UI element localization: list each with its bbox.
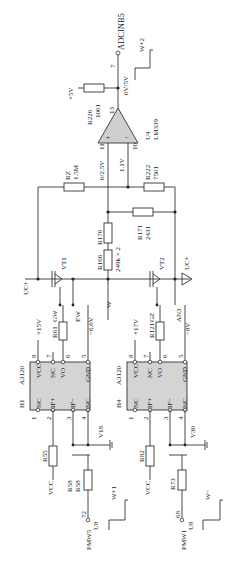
r166-resistor (104, 250, 112, 270)
h1-nc7: NC (49, 368, 57, 378)
rz-ref: RZ (64, 171, 72, 180)
h4-pin8: 8 (127, 354, 135, 358)
h4-input-vcc: VCC (144, 480, 152, 495)
v18-label: V18 (97, 425, 105, 438)
r73-ref: R73 (169, 478, 177, 490)
h4-pwm-label: PMW1 (180, 529, 188, 550)
h4-part: A3120 (115, 365, 123, 385)
h4-pin2: 2 (142, 416, 150, 420)
waveform-w1-icon (109, 500, 128, 530)
h4-vcc-pinlabel: VCC (132, 363, 140, 378)
r226-resistor (84, 84, 104, 92)
r82-resistor (146, 446, 154, 466)
h4-pin7: 7 (142, 354, 150, 358)
waveform-w2-icon (135, 50, 153, 78)
h1-pin2: 2 (45, 416, 53, 420)
h1-nc4: NC (84, 398, 92, 408)
h4-pwm-pin: 68 (174, 511, 182, 519)
r176-resistor (104, 223, 112, 243)
circuit-schematic: ADCINB5 7 0V/5V W+2 +5V R226 1001 + − 13… (0, 0, 233, 562)
h1-pin6: 6 (64, 354, 72, 358)
r222-resistor (144, 183, 164, 191)
r55-resistor (49, 446, 57, 466)
pin10-label: 10 (131, 143, 139, 151)
h1-gnd-level: −6.6V (87, 317, 95, 335)
h4-ref: H4 (115, 399, 123, 408)
r121-ref: R121 (148, 322, 156, 338)
gw-label: GW (51, 310, 59, 322)
output-pin-label: 7 (109, 64, 117, 68)
h1-vo: VO (59, 368, 67, 378)
r121-resistor (156, 322, 164, 340)
uc-plus-left: UC+ (22, 281, 30, 295)
r55-ref: R55 (41, 450, 49, 462)
r58-ref: R58 (66, 480, 74, 492)
h1-mcu: U8 (92, 521, 100, 530)
lm339-comparator (98, 108, 138, 143)
r226-value: 1001 (94, 104, 102, 119)
vt2-label: VT2 (158, 257, 166, 270)
rz-resistor (64, 183, 84, 191)
r166-value: 249k × 2 (114, 247, 122, 272)
waveform-w1-label: W+1 (110, 485, 118, 500)
h4-gnd: GND (181, 367, 189, 382)
h4-mcu: U8 (187, 521, 195, 530)
h1-gnd: GND (84, 367, 92, 382)
output-level-label: 0V/5V (122, 76, 130, 95)
r61-resistor (59, 322, 67, 340)
igbt-vt1: VT1 GW EW (51, 257, 82, 322)
h4-gnd-level: −8V (184, 322, 192, 335)
r58-resistor (84, 470, 92, 490)
h4-vcc-level: +17V (132, 319, 140, 335)
adcinb5-terminal (116, 51, 120, 55)
ew-label: EW (74, 311, 82, 322)
waveform-wminus-label: W− (204, 489, 212, 500)
h4-pin4: 4 (177, 416, 185, 420)
r222-ref: R222 (144, 164, 152, 180)
h4-nc7: NC (146, 368, 154, 378)
h1-pin4: 4 (80, 416, 88, 420)
h1-input-vcc: VCC (47, 480, 55, 495)
v30-label: V30 (189, 425, 197, 438)
an3-label: AN3 (175, 308, 183, 322)
r176-ref: R176 (96, 229, 104, 245)
pin13-label: 13 (108, 107, 116, 115)
h1-pin5: 5 (80, 354, 88, 358)
h1-pwm-label: PMW5 (85, 529, 93, 550)
waveform-wminus-icon (203, 500, 223, 530)
minus-input-level: 1.1V (118, 158, 126, 172)
r171-value: 2431 (144, 226, 152, 241)
r73-resistor (178, 470, 186, 490)
u4-ref: U4 (144, 131, 152, 140)
plus-sign: + (106, 134, 110, 142)
h1-pin1: 1 (30, 416, 38, 420)
pullup-supply-label: +5V (67, 87, 75, 100)
h1-pin3: 3 (65, 416, 73, 420)
h4-ifm: IF− (166, 398, 174, 408)
h4-pin1: 1 (127, 416, 135, 420)
h1-pin8: 8 (30, 354, 38, 358)
h4-ifp: IF+ (146, 398, 154, 408)
h1-pwm-pin: 72 (80, 511, 88, 519)
r222-value: 7501 (152, 166, 160, 181)
plus-input-level: 0/2.5V (98, 161, 106, 180)
divider-network: RZ 1.5M R222 7501 R171 2431 R176 R166 24… (22, 164, 192, 320)
h4-vo: VO (156, 368, 164, 378)
r166-ref: R166 (96, 254, 104, 270)
h4-nc1: NC (132, 398, 140, 408)
gz-label: GZ (148, 313, 156, 322)
waveform-w2-label: W+2 (138, 37, 146, 52)
h1-ref: H1 (18, 399, 26, 408)
minus-sign: − (125, 134, 129, 142)
driver-h4: R121 +17V −8V 8 7 6 5 VCC NC VO GND NC I… (115, 305, 223, 550)
driver-h1: R61 +15V −6.6V 8 7 6 5 VCC NC VO GND NC … (18, 305, 128, 550)
h1-nc1: NC (35, 398, 43, 408)
h1-part: A3120 (18, 365, 26, 385)
r82-ref: R82 (138, 450, 146, 462)
h1-ifm: IF− (69, 398, 77, 408)
r226-ref: R226 (86, 109, 94, 125)
r58-value: R58 (74, 480, 82, 492)
vt1-label: VT1 (60, 257, 68, 270)
h1-vcc-level: +15V (35, 319, 43, 335)
h1-ifp: IF+ (49, 398, 57, 408)
